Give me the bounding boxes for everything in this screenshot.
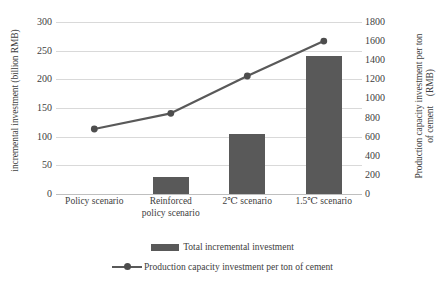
line-marker xyxy=(244,73,251,80)
x-axis-category-label: Reinforced policy scenario xyxy=(133,196,210,219)
y-axis-left-tick-label: 100 xyxy=(16,132,52,142)
combo-chart: incremental investment (billion RMB) Pro… xyxy=(0,0,445,288)
line-series xyxy=(56,22,362,194)
y-axis-right-tick-label: 1800 xyxy=(365,17,399,27)
chart-legend: Total incremental investment Production … xyxy=(0,237,445,277)
line-markers xyxy=(91,38,327,133)
y-axis-right-tick-label: 1600 xyxy=(365,36,399,46)
line-path xyxy=(94,41,323,129)
line-marker xyxy=(320,38,327,45)
legend-label-bar: Total incremental investment xyxy=(183,242,294,253)
y-axis-left-tick-label: 300 xyxy=(16,17,52,27)
line-marker xyxy=(91,126,98,133)
legend-item-line[interactable]: Production capacity investment per ton o… xyxy=(0,257,445,277)
y-axis-left-tick-label: 0 xyxy=(16,189,52,199)
y-axis-left-tick-label: 200 xyxy=(16,74,52,84)
y-axis-right-tick-label: 800 xyxy=(365,113,399,123)
x-axis-category-label: 2℃ scenario xyxy=(209,196,286,208)
line-marker-swatch-icon xyxy=(112,263,142,272)
y-axis-right-tick-label: 1400 xyxy=(365,55,399,65)
x-axis-labels: Policy scenarioReinforced policy scenari… xyxy=(56,196,362,226)
y-axis-right-title: Production capacity investment per ton o… xyxy=(414,11,436,201)
legend-item-bar[interactable]: Total incremental investment xyxy=(0,237,445,257)
gridline xyxy=(56,194,362,195)
line-marker xyxy=(167,110,174,117)
y-axis-left-tick-label: 250 xyxy=(16,46,52,56)
plot-area xyxy=(56,22,362,194)
x-axis-category-label: 1.5℃ scenario xyxy=(286,196,363,208)
y-axis-right-title-line1: Production capacity investment per ton xyxy=(414,34,424,179)
legend-label-line: Production capacity investment per ton o… xyxy=(144,262,333,273)
y-axis-right-tick-label: 1000 xyxy=(365,93,399,103)
y-axis-right-title-line2: of cement (RMB) xyxy=(425,11,436,201)
y-axis-right-tick-label: 200 xyxy=(365,170,399,180)
y-axis-left-tick-label: 150 xyxy=(16,103,52,113)
y-axis-right-tick-label: 600 xyxy=(365,132,399,142)
y-axis-right-tick-label: 1200 xyxy=(365,74,399,84)
y-axis-left-tick-label: 50 xyxy=(16,160,52,170)
y-axis-right-tick-label: 0 xyxy=(365,189,399,199)
bar-swatch-icon xyxy=(151,244,179,251)
y-axis-right-tick-label: 400 xyxy=(365,151,399,161)
x-axis-category-label: Policy scenario xyxy=(56,196,133,208)
